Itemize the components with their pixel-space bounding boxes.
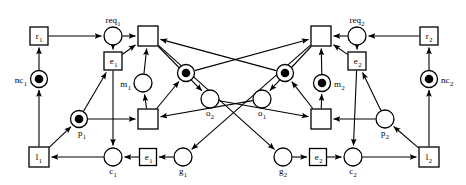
place-nc1[interactable] [31,71,48,88]
place-t2a[interactable] [277,65,294,82]
place-g1[interactable] [174,148,192,166]
token-nc2 [425,75,434,84]
place-req2[interactable] [348,27,366,45]
arc-e2t-T3 [334,45,348,55]
place-p1[interactable] [71,111,88,128]
arc-layer [39,36,429,157]
node-layer [29,26,439,167]
transition-T2[interactable] [138,109,158,129]
arc-T2-m1 [145,94,147,108]
petri-net-diagram: r1e1l1e1r2e2l2e2req1nc1m1o2o1m2req2nc2p1… [0,0,466,185]
place-g2[interactable] [274,148,292,166]
place-o2[interactable] [201,90,219,108]
place-req1[interactable] [104,27,122,45]
arc-m1-T1 [144,49,147,74]
arc-p2-e2t [363,73,381,111]
arc-p1-e1t [84,73,107,112]
place-o1[interactable] [253,90,271,108]
place-m1[interactable] [134,74,152,92]
place-label-p1: p1 [78,128,86,140]
transition-T1[interactable] [138,26,158,46]
place-label-g2: g2 [279,166,287,178]
place-label-req2: req2 [349,15,364,27]
transition-T3[interactable] [311,26,331,46]
place-label-o2: o2 [206,108,214,120]
arc-m2-T3 [321,49,322,75]
arc-l2-p2 [394,127,419,148]
label-layer: r1e1l1e1r2e2l2e2req1nc1m1o2o1m2req2nc2p1… [15,15,453,178]
token-t2a [281,69,290,78]
place-p2[interactable] [376,110,394,128]
place-label-nc1: nc1 [15,75,27,87]
transition-T4[interactable] [311,109,331,129]
place-label-c2: c2 [349,166,357,178]
place-label-nc2: nc2 [441,75,453,87]
place-label-p2: p2 [381,128,389,140]
place-c1[interactable] [104,148,122,166]
place-m2[interactable] [314,75,331,92]
token-m2 [318,79,327,88]
place-label-req1: req1 [105,15,120,27]
place-label-c1: c1 [109,166,117,178]
token-t1a [182,69,191,78]
arc-e2t-c2 [353,71,356,146]
token-p1 [75,115,84,124]
arc-l1-p1 [50,127,72,147]
place-label-o1: o1 [258,108,266,120]
token-nc1 [35,75,44,84]
place-label-m2: m2 [334,79,345,91]
place-label-g1: g1 [179,166,187,178]
arc-t1a-T3 [195,39,309,70]
place-label-m1: m1 [120,79,131,91]
arc-T4-t2a [292,82,313,109]
arc-e1t-T1 [123,45,136,54]
petri-net-canvas: r1e1l1e1r2e2l2e2req1nc1m1o2o1m2req2nc2p1… [0,0,466,185]
place-t1a[interactable] [178,65,195,82]
place-nc2[interactable] [421,71,438,88]
place-c2[interactable] [344,148,362,166]
arc-T2-t1a [157,81,179,108]
